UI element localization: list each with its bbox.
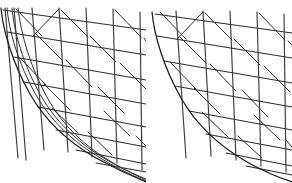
panel-left-horizontal-lines [3,10,146,172]
panel-left-vertical-lines [5,8,142,170]
figure-root [0,0,292,183]
panel-right-canvas [146,0,292,183]
panel-left-diagonal-lines [16,9,146,155]
panel-right [146,0,292,183]
panel-right-vertical-lines [176,11,286,172]
panel-right-diagonal-lines [160,12,292,158]
panel-right-horizontal-lines [155,14,292,175]
panel-left-canvas [0,0,146,183]
panel-right-boundary-group [152,12,292,182]
panel-left [0,0,146,183]
panel-left-boundary-group [1,8,146,182]
